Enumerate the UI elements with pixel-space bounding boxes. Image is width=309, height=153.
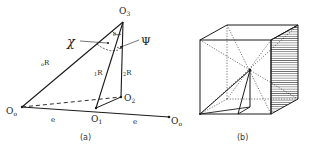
cube-center-dot [249,69,252,72]
cube-front-face [200,40,271,114]
psi-pointer [121,40,139,47]
dashed-line-o0-o2 [22,97,121,107]
label-o0-right: Oo [171,116,182,127]
cube-corner-dot [199,113,201,115]
label-edge-1R: 1R [94,69,103,77]
caption-b: (b) [237,133,248,142]
vertex-o0-left [21,106,23,108]
figure-a-labels: O3 Oo O1 O2 Oo oR 1R 2R χ Ψ θ e e (a) [6,6,182,142]
label-o2: O2 [124,93,135,104]
label-edge-oR: oR [41,59,50,67]
label-edge-2R: 2R [123,69,132,77]
psi-dot [120,46,122,48]
label-theta: θ [113,31,116,37]
caption-a: (a) [80,133,91,142]
diagram-canvas: O3 Oo O1 O2 Oo oR 1R 2R χ Ψ θ e e (a) [0,0,309,153]
figure-b-cube [199,25,298,115]
vertex-o2 [120,96,122,98]
label-e-left: e [51,116,55,124]
label-o3: O3 [119,6,130,17]
label-psi: Ψ [141,35,151,48]
label-o0-left: Oo [6,106,17,117]
label-e-right: e [133,118,137,126]
edge-2R [121,22,123,97]
label-o1: O1 [91,114,102,125]
cube-inner-tetrahedron [200,70,250,114]
cube-right-face-hatched [271,25,298,114]
vertex-o0-right [168,116,171,119]
vertex-o1 [95,107,97,109]
chi-pointer [80,41,107,43]
label-chi: χ [66,34,76,49]
chi-dot [107,42,109,44]
